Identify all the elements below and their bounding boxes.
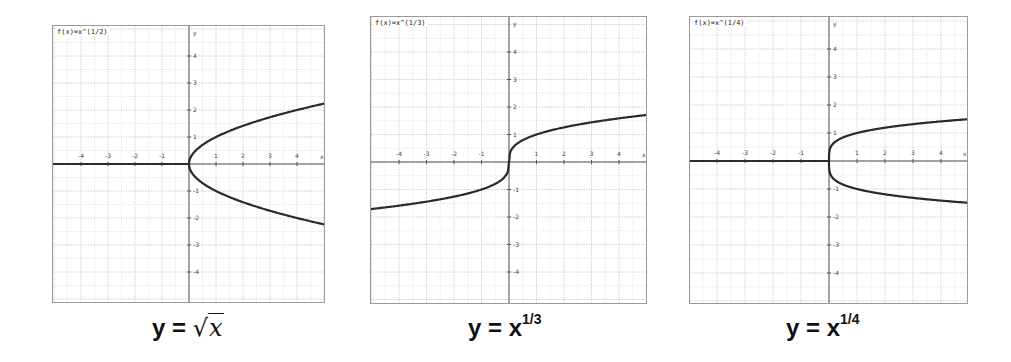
x-axis-name: x bbox=[963, 150, 967, 157]
y-tick-label: -1 bbox=[513, 186, 519, 193]
y-tick-label: 1 bbox=[193, 133, 197, 140]
x-tick-label: -4 bbox=[396, 150, 402, 157]
x-tick-label: 1 bbox=[535, 150, 539, 157]
y-tick-label: 2 bbox=[193, 106, 197, 113]
x-tick-label: 3 bbox=[590, 150, 594, 157]
x-tick-label: 4 bbox=[939, 149, 943, 156]
graph-fourth-root: -4-3-2-11234-4-3-2-11234xy bbox=[690, 17, 968, 304]
x-tick-label: -4 bbox=[714, 149, 720, 156]
graph-sqrt: -4-3-2-11234-4-3-2-11234xy bbox=[53, 26, 325, 303]
y-tick-label: -4 bbox=[513, 268, 519, 275]
y-tick-label: -2 bbox=[513, 213, 519, 220]
curve-upper-branch bbox=[829, 119, 968, 162]
plot-area-fourth-root: -4-3-2-11234-4-3-2-11234xy f(x)=x^(1/4) bbox=[689, 16, 968, 304]
y-tick-label: -1 bbox=[193, 187, 199, 194]
caption-prefix: y = bbox=[152, 314, 193, 341]
y-tick-label: 4 bbox=[193, 52, 197, 59]
x-tick-label: 3 bbox=[268, 152, 272, 159]
plot-area-sqrt: -4-3-2-11234-4-3-2-11234xy f(x)=x^(1/2) bbox=[52, 25, 325, 303]
y-tick-label: 4 bbox=[833, 45, 837, 52]
caption-exponent: 1/4 bbox=[840, 311, 859, 327]
x-axis-name: x bbox=[642, 151, 646, 158]
x-tick-label: 3 bbox=[911, 149, 915, 156]
y-tick-label: -2 bbox=[193, 214, 199, 221]
y-tick-label: 2 bbox=[513, 103, 517, 110]
y-tick-label: 1 bbox=[513, 131, 517, 138]
y-tick-label: -3 bbox=[513, 241, 519, 248]
x-tick-label: -1 bbox=[479, 150, 485, 157]
x-tick-label: -4 bbox=[78, 152, 84, 159]
caption-sqrt: y = √x bbox=[152, 314, 224, 342]
x-tick-label: 4 bbox=[617, 150, 621, 157]
x-tick-label: -3 bbox=[105, 152, 111, 159]
x-axis-name: x bbox=[320, 153, 324, 160]
radicand: x bbox=[208, 313, 224, 342]
x-tick-label: 1 bbox=[214, 152, 218, 159]
y-tick-label: -2 bbox=[833, 213, 839, 220]
curve-lower-branch bbox=[189, 164, 325, 226]
y-tick-label: 4 bbox=[513, 48, 517, 55]
caption-fourth-root: y = x1/4 bbox=[786, 314, 860, 342]
y-tick-label: -3 bbox=[833, 241, 839, 248]
x-tick-label: -2 bbox=[770, 149, 776, 156]
function-label: f(x)=x^(1/4) bbox=[693, 19, 746, 27]
y-tick-label: 3 bbox=[513, 76, 517, 83]
caption-exponent: 1/3 bbox=[522, 311, 541, 327]
y-tick-label: 3 bbox=[833, 73, 837, 80]
radical-sign: √ bbox=[193, 314, 208, 342]
y-tick-label: -3 bbox=[193, 241, 199, 248]
x-tick-label: -3 bbox=[424, 150, 430, 157]
function-label: f(x)=x^(1/2) bbox=[56, 28, 109, 36]
y-tick-label: -4 bbox=[833, 269, 839, 276]
function-label: f(x)=x^(1/3) bbox=[374, 19, 427, 27]
caption-prefix: y = x bbox=[786, 314, 840, 341]
x-tick-label: -1 bbox=[159, 152, 165, 159]
y-axis-name: y bbox=[513, 20, 517, 28]
y-tick-label: 3 bbox=[193, 79, 197, 86]
x-tick-label: 1 bbox=[855, 149, 859, 156]
y-tick-label: 1 bbox=[833, 129, 837, 136]
y-axis-name: y bbox=[193, 29, 197, 37]
x-tick-label: -2 bbox=[132, 152, 138, 159]
plot-area-cube-root: -4-3-2-11234-4-3-2-11234xy f(x)=x^(1/3) bbox=[370, 16, 647, 304]
x-tick-label: 2 bbox=[562, 150, 566, 157]
graph-cube-root: -4-3-2-11234-4-3-2-11234xy bbox=[371, 17, 647, 304]
y-tick-label: -1 bbox=[833, 185, 839, 192]
caption-prefix: y = x bbox=[468, 314, 522, 341]
curve-upper-branch bbox=[189, 102, 325, 164]
x-tick-label: 2 bbox=[883, 149, 887, 156]
x-tick-label: -3 bbox=[742, 149, 748, 156]
curve-lower-branch bbox=[829, 161, 968, 204]
y-tick-label: 2 bbox=[833, 101, 837, 108]
x-tick-label: -2 bbox=[451, 150, 457, 157]
caption-cube-root: y = x1/3 bbox=[468, 314, 542, 342]
y-tick-label: -4 bbox=[193, 268, 199, 275]
x-tick-label: -1 bbox=[798, 149, 804, 156]
x-tick-label: 4 bbox=[295, 152, 299, 159]
x-tick-label: 2 bbox=[241, 152, 245, 159]
y-axis-name: y bbox=[833, 20, 837, 28]
